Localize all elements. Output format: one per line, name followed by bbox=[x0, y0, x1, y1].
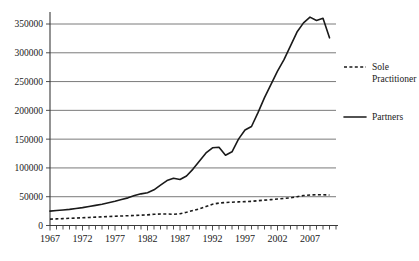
legend-label-partners: Partners bbox=[372, 112, 403, 122]
data-series bbox=[50, 17, 330, 219]
series-line-partners bbox=[50, 17, 330, 211]
chart-legend: SolePractitionerPartners bbox=[344, 62, 417, 122]
x-tick-label-2007: 2007 bbox=[300, 233, 320, 244]
y-tick-label-200000: 200000 bbox=[15, 106, 44, 116]
y-tick-label-300000: 300000 bbox=[15, 48, 44, 58]
y-tick-label-350000: 350000 bbox=[15, 19, 44, 29]
x-tick-label-1972: 1972 bbox=[73, 233, 93, 244]
x-tick-label-1967: 1967 bbox=[40, 233, 60, 244]
x-tick-label-2002: 2002 bbox=[268, 233, 288, 244]
x-tick-label-1992: 1992 bbox=[203, 233, 223, 244]
series-line-sole-practitioner bbox=[50, 195, 330, 219]
x-tick-label-1997: 1997 bbox=[235, 233, 255, 244]
x-tick-label-1987: 1987 bbox=[170, 233, 190, 244]
legend-label-sole-line2: Practitioner bbox=[372, 74, 417, 84]
y-tick-label-150000: 150000 bbox=[15, 135, 44, 145]
x-tick-label-1977: 1977 bbox=[105, 233, 125, 244]
line-chart: 0500001000001500002000002500003000003500… bbox=[0, 0, 419, 261]
y-tick-label-100000: 100000 bbox=[15, 163, 44, 173]
y-axis-tick-labels: 0500001000001500002000002500003000003500… bbox=[15, 19, 51, 231]
legend-label-sole: Sole bbox=[372, 62, 389, 72]
x-axis-tick-marks bbox=[50, 226, 336, 231]
y-tick-label-0: 0 bbox=[38, 221, 43, 231]
x-tick-label-1982: 1982 bbox=[138, 233, 158, 244]
y-tick-label-50000: 50000 bbox=[19, 192, 43, 202]
y-tick-label-250000: 250000 bbox=[15, 77, 44, 87]
x-axis-tick-labels: 196719721977198219871992199720022007 bbox=[40, 233, 320, 244]
gridlines bbox=[50, 24, 336, 197]
chart-container: 0500001000001500002000002500003000003500… bbox=[0, 0, 419, 261]
